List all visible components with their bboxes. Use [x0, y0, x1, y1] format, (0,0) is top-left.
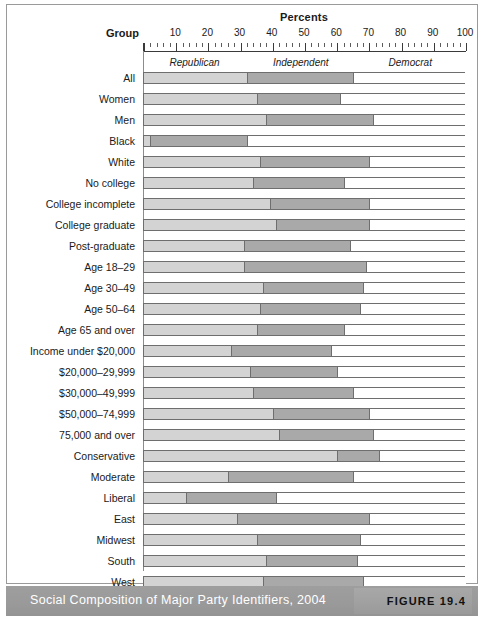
bar-segment-independent: [273, 409, 370, 419]
bar-segment-independent: [270, 199, 370, 209]
bar-segment-democrat: [331, 346, 466, 356]
x-tick-label-10: 10: [170, 27, 181, 38]
bar-segment-independent: [260, 304, 360, 314]
x-tick-label-90: 90: [427, 27, 438, 38]
chart-row: College graduate: [7, 216, 479, 237]
stacked-bar: [143, 408, 465, 420]
ruler-tick: [241, 43, 242, 51]
bar-segment-republican: [144, 451, 337, 461]
ruler-tick: [408, 43, 409, 47]
row-label-black: Black: [9, 135, 135, 147]
bar-segment-republican: [144, 472, 228, 482]
row-label-age-65-and-over: Age 65 and over: [9, 324, 135, 336]
bar-segment-democrat: [247, 136, 466, 146]
stacked-bar: [143, 345, 465, 357]
bar-segment-independent: [253, 178, 343, 188]
x-tick-label-70: 70: [363, 27, 374, 38]
row-label-wrap: Age 18–29: [7, 258, 135, 279]
ruler-tick: [414, 43, 415, 47]
bar-segment-democrat: [373, 115, 466, 125]
x-axis-tick-labels: 102030405060708090100: [143, 27, 465, 41]
bar-segment-republican: [144, 157, 260, 167]
stacked-bar: [143, 492, 465, 504]
ruler-tick: [337, 43, 338, 51]
ruler-tick: [176, 43, 177, 51]
ruler-tick: [247, 43, 248, 47]
bar-segment-republican: [144, 409, 273, 419]
chart-row: South: [7, 552, 479, 573]
row-label-wrap: Income under $20,000: [7, 342, 135, 363]
bar-segment-democrat: [344, 178, 466, 188]
row-label-conservative: Conservative: [9, 450, 135, 462]
chart-row: White: [7, 153, 479, 174]
x-axis-ruler: [143, 43, 465, 52]
bar-segment-democrat: [360, 304, 466, 314]
bar-segment-democrat: [360, 535, 466, 545]
ruler-tick: [260, 43, 261, 47]
ruler-tick: [421, 43, 422, 47]
row-label-post-graduate: Post-graduate: [9, 240, 135, 252]
row-label-wrap: $50,000–74,999: [7, 405, 135, 426]
bar-segment-independent: [244, 241, 350, 251]
stacked-bar: [143, 366, 465, 378]
row-label-all: All: [9, 72, 135, 84]
bar-segment-independent: [257, 325, 344, 335]
y-axis-title: Group: [67, 27, 139, 39]
bar-segment-democrat: [369, 514, 466, 524]
figure-number-text: FIGURE 19.4: [387, 595, 466, 607]
ruler-tick: [382, 43, 383, 47]
ruler-tick: [389, 43, 390, 47]
ruler-tick: [208, 43, 209, 51]
stacked-bar: [143, 261, 465, 273]
ruler-tick: [234, 43, 235, 47]
row-label-white: White: [9, 156, 135, 168]
row-label-wrap: White: [7, 153, 135, 174]
ruler-tick: [318, 43, 319, 47]
bar-segment-republican: [144, 556, 266, 566]
row-label-wrap: All: [7, 69, 135, 90]
row-label-wrap: $30,000–49,999: [7, 384, 135, 405]
ruler-tick: [221, 43, 222, 47]
chart-row: East: [7, 510, 479, 531]
chart-row: College incomplete: [7, 195, 479, 216]
bar-segment-independent: [247, 73, 353, 83]
row-label-wrap: $20,000–29,999: [7, 363, 135, 384]
bar-segment-democrat: [344, 325, 466, 335]
stacked-bar: [143, 555, 465, 567]
stacked-bar: [143, 135, 465, 147]
stacked-bar: [143, 240, 465, 252]
bar-segment-democrat: [369, 409, 466, 419]
ruler-tick: [273, 43, 274, 51]
ruler-tick: [453, 43, 454, 47]
row-label-wrap: Men: [7, 111, 135, 132]
bar-segment-independent: [150, 136, 247, 146]
bar-segment-democrat: [369, 199, 466, 209]
ruler-tick: [183, 43, 184, 47]
ruler-tick: [395, 43, 396, 47]
ruler-tick: [427, 43, 428, 47]
row-label-wrap: 75,000 and over: [7, 426, 135, 447]
bar-segment-democrat: [353, 73, 466, 83]
stacked-bar: [143, 513, 465, 525]
ruler-tick: [311, 43, 312, 47]
row-label-wrap: College incomplete: [7, 195, 135, 216]
x-tick-label-50: 50: [298, 27, 309, 38]
chart-row: Age 50–64: [7, 300, 479, 321]
ruler-tick: [369, 43, 370, 51]
row-label-wrap: Black: [7, 132, 135, 153]
bar-segment-republican: [144, 283, 263, 293]
x-tick-label-100: 100: [457, 27, 474, 38]
bar-segment-democrat: [369, 157, 466, 167]
x-tick-label-40: 40: [266, 27, 277, 38]
bar-segment-republican: [144, 73, 247, 83]
chart-row: No college: [7, 174, 479, 195]
stacked-bar: [143, 219, 465, 231]
ruler-tick: [286, 43, 287, 47]
chart-row: Age 65 and over: [7, 321, 479, 342]
chart-row: Women: [7, 90, 479, 111]
legend-label-independent: Independent: [273, 57, 329, 68]
bar-segment-independent: [276, 220, 369, 230]
row-label-wrap: Conservative: [7, 447, 135, 468]
ruler-tick: [215, 43, 216, 47]
ruler-tick: [279, 43, 280, 47]
